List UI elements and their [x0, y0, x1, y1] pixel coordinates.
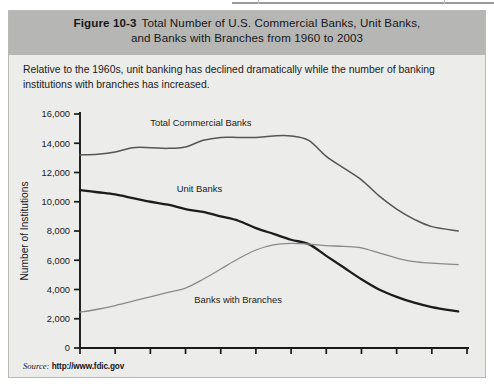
- figure-title-text-1: Total Number of U.S. Commercial Banks, U…: [142, 16, 421, 29]
- series-label-total-commercial-banks: Total Commercial Banks: [150, 117, 251, 128]
- y-axis-tick-label: 0: [65, 343, 70, 353]
- series-label-banks-with-branches: Banks with Branches: [194, 294, 282, 305]
- figure-source: Source: http://www.fdic.gov: [9, 359, 485, 377]
- scan-artifact-rule: [232, 2, 494, 4]
- source-label: Source:: [23, 361, 49, 371]
- y-axis-tick-label: 6,000: [47, 256, 70, 266]
- scan-artifact-tick-right: [444, 0, 445, 4]
- figure-header-band: Figure 10-3Total Number of U.S. Commerci…: [9, 11, 485, 55]
- figure-caption: Relative to the 1960s, unit banking has …: [9, 55, 485, 96]
- series-label-unit-banks: Unit Banks: [177, 183, 223, 194]
- figure-title-line-1: Figure 10-3Total Number of U.S. Commerci…: [23, 15, 471, 30]
- y-axis-tick-label: 4,000: [47, 285, 70, 295]
- figure-container: Figure 10-3Total Number of U.S. Commerci…: [8, 10, 486, 378]
- y-axis-title: Number of Institutions: [19, 181, 30, 280]
- chart-area: 02,0004,0006,0008,00010,00012,00014,0001…: [9, 95, 487, 357]
- y-axis-tick-label: 10,000: [42, 197, 70, 207]
- source-url[interactable]: http://www.fdic.gov: [52, 362, 124, 371]
- y-axis-tick-label: 12,000: [42, 168, 70, 178]
- y-axis-tick-label: 8,000: [47, 226, 70, 236]
- figure-title-line-2: and Banks with Branches from 1960 to 200…: [23, 30, 471, 45]
- y-axis-tick-label: 2,000: [47, 314, 70, 324]
- scan-artifact-tick-left: [258, 0, 259, 4]
- series-line-total-commercial-banks: [80, 136, 458, 231]
- figure-number-label: Figure 10-3: [74, 16, 137, 29]
- y-axis-tick-label: 16,000: [42, 109, 70, 119]
- line-chart: 02,0004,0006,0008,00010,00012,00014,0001…: [9, 95, 487, 357]
- y-axis-tick-label: 14,000: [42, 139, 70, 149]
